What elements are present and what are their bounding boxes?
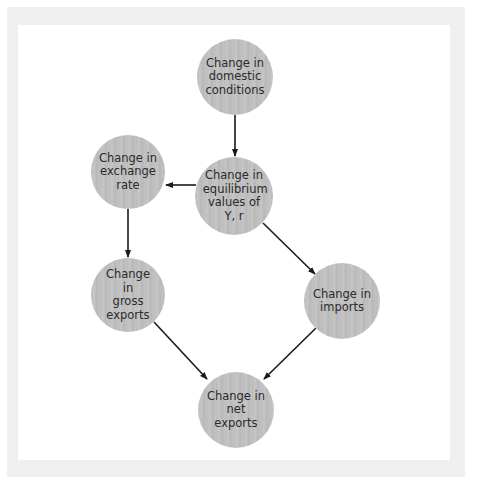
node-label: Change in gross exports (106, 268, 150, 322)
node-imports: Change in imports (304, 263, 380, 339)
node-gross-exports: Change in gross exports (91, 258, 165, 332)
node-label: Change in equilibrium values of Y, r (203, 169, 265, 223)
arrow-imports-to-net-exports (264, 328, 316, 379)
node-exchange-rate: Change in exchange rate (91, 135, 165, 209)
node-label: Change in net exports (206, 390, 267, 431)
node-equilibrium-values: Change in equilibrium values of Y, r (195, 157, 273, 235)
arrow-equilibrium-to-imports (263, 223, 315, 274)
node-label: Change in imports (312, 288, 373, 315)
node-label: Change in exchange rate (98, 152, 157, 193)
node-domestic-conditions: Change in domestic conditions (197, 39, 273, 115)
arrow-gross-exports-to-net-exports (154, 322, 207, 379)
node-net-exports: Change in net exports (198, 372, 274, 448)
node-label: Change in domestic conditions (205, 57, 266, 98)
